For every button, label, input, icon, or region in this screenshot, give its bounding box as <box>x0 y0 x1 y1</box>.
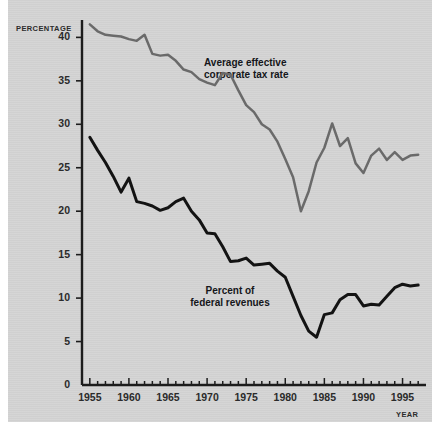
axis-lines <box>82 20 426 385</box>
series-line-federal-revenues <box>90 137 418 337</box>
chart-figure: PERCENTAGE YEAR 4035302520151050 1955196… <box>0 0 448 437</box>
chart-plot-area <box>0 0 448 437</box>
series-line-corporate-tax-rate <box>90 24 418 211</box>
data-series-group <box>90 24 418 337</box>
axis-ticks <box>76 37 418 385</box>
